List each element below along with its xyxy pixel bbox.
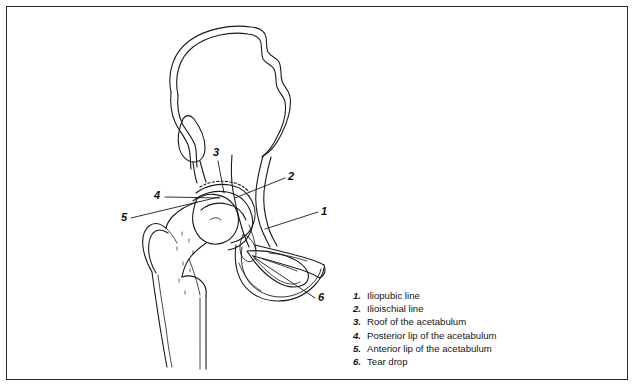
legend-label: Roof of the acetabulum bbox=[367, 315, 466, 328]
callout-label-6: 6 bbox=[318, 291, 324, 303]
legend: 1. Iliopubic line 2. Ilioischial line 3.… bbox=[353, 289, 563, 368]
legend-item: 6. Tear drop bbox=[353, 355, 563, 368]
legend-item: 5. Anterior lip of the acetabulum bbox=[353, 342, 563, 355]
legend-label: Tear drop bbox=[367, 355, 408, 368]
iliopubic-line bbox=[264, 157, 277, 246]
legend-number: 3. bbox=[353, 315, 367, 328]
iliac-wing-outer bbox=[170, 26, 291, 156]
ilium-left-margin bbox=[171, 92, 191, 169]
pubic-ramus-ridge bbox=[263, 259, 297, 271]
leader-1 bbox=[265, 212, 318, 229]
legend-label: Iliopubic line bbox=[367, 289, 420, 302]
femoral-head-fovea bbox=[210, 218, 221, 220]
figure-frame: 1 2 3 4 5 6 1. Iliopubic line 2. Ilioisc… bbox=[6, 6, 628, 380]
legend-number: 6. bbox=[353, 355, 367, 368]
leader-3 bbox=[218, 161, 224, 193]
lesser-trochanter bbox=[182, 276, 206, 296]
legend-item: 1. Iliopubic line bbox=[353, 289, 563, 302]
aiis-neck-2 bbox=[200, 161, 206, 182]
trochanteric-fossa bbox=[166, 228, 177, 243]
legend-number: 5. bbox=[353, 342, 367, 355]
legend-item: 3. Roof of the acetabulum bbox=[353, 315, 563, 328]
iliac-wing-inner bbox=[177, 33, 286, 157]
callout-label-3: 3 bbox=[213, 146, 219, 158]
superior-pubic-ramus-superior bbox=[255, 245, 324, 265]
leader-4 bbox=[165, 197, 220, 198]
ilioischial-line bbox=[231, 155, 249, 247]
legend-number: 1. bbox=[353, 289, 367, 302]
greater-trochanter-inner bbox=[149, 230, 168, 273]
legend-item: 4. Posterior lip of the acetabulum bbox=[353, 329, 563, 342]
callout-label-4: 4 bbox=[154, 189, 160, 201]
callout-label-2: 2 bbox=[288, 170, 294, 182]
legend-label: Ilioischial line bbox=[367, 302, 424, 315]
leader-6 bbox=[255, 258, 315, 298]
callout-label-1: 1 bbox=[321, 205, 327, 217]
legend-item: 2. Ilioischial line bbox=[353, 302, 563, 315]
legend-number: 4. bbox=[353, 329, 367, 342]
legend-number: 2. bbox=[353, 302, 367, 315]
callout-label-5: 5 bbox=[121, 211, 127, 223]
anterior-lip-acetabulum bbox=[193, 191, 252, 250]
legend-label: Posterior lip of the acetabulum bbox=[367, 329, 497, 342]
leader-2 bbox=[235, 178, 285, 198]
legend-label: Anterior lip of the acetabulum bbox=[367, 342, 492, 355]
